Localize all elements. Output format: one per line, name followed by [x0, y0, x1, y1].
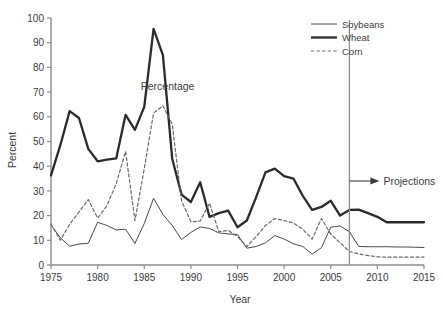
x-tick-label: 1980 — [87, 272, 110, 283]
chart-container: 0102030405060708090100 19751980198519901… — [0, 0, 443, 313]
data-series — [51, 29, 424, 257]
projections-annotation: Projections — [383, 175, 435, 187]
x-tick-label: 1995 — [226, 272, 249, 283]
chart-legend: SoybeansWheatCorn — [311, 19, 385, 57]
y-tick-label: 30 — [33, 186, 45, 197]
x-tick-label: 2000 — [273, 272, 296, 283]
y-tick-label: 80 — [33, 62, 45, 73]
chart-annotations: PercentageProjections — [141, 80, 436, 187]
x-tick-label: 1975 — [40, 272, 63, 283]
y-tick-label: 20 — [33, 210, 45, 221]
y-axis-ticks: 0102030405060708090100 — [27, 13, 51, 271]
legend-label-corn: Corn — [342, 46, 363, 57]
legend-label-soybeans: Soybeans — [342, 19, 385, 30]
x-tick-label: 1985 — [133, 272, 156, 283]
percentage-annotation: Percentage — [141, 80, 195, 92]
y-tick-label: 10 — [33, 235, 45, 246]
line-chart: 0102030405060708090100 19751980198519901… — [0, 0, 443, 313]
y-axis-label: Percent — [6, 132, 18, 168]
y-tick-label: 60 — [33, 111, 45, 122]
x-tick-label: 2010 — [366, 272, 389, 283]
series-line-wheat — [51, 29, 424, 227]
y-tick-label: 100 — [27, 13, 44, 24]
y-tick-label: 0 — [38, 260, 44, 271]
y-tick-label: 90 — [33, 37, 45, 48]
y-tick-label: 40 — [33, 161, 45, 172]
x-axis-label: Year — [229, 293, 251, 305]
projections-arrow-head — [370, 178, 379, 185]
legend-label-wheat: Wheat — [342, 32, 370, 43]
x-axis-ticks: 197519801985199019952000200520102015 — [40, 265, 436, 283]
y-tick-label: 70 — [33, 87, 45, 98]
x-tick-label: 2005 — [320, 272, 343, 283]
x-tick-label: 2015 — [413, 272, 436, 283]
x-tick-label: 1990 — [180, 272, 203, 283]
y-tick-label: 50 — [33, 136, 45, 147]
